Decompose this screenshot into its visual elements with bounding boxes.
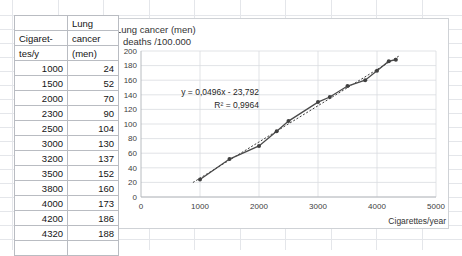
cell-lung-cancer-deaths[interactable]: 137: [68, 151, 119, 166]
x-tick-label: 0: [139, 202, 144, 211]
x-tick-label: 2000: [250, 202, 268, 211]
table-row[interactable]: 4320188: [15, 226, 119, 241]
cell-cigarettes-per-year[interactable]: 1000: [15, 61, 68, 76]
table-row[interactable]: 200070: [15, 91, 119, 106]
table-row[interactable]: 3500152: [15, 166, 119, 181]
y-tick-label: 180: [124, 61, 138, 70]
y-tick-label: 20: [128, 178, 137, 187]
cell-lung-cancer-deaths[interactable]: 188: [68, 226, 119, 241]
data-point-marker: [257, 144, 261, 148]
data-point-marker: [275, 129, 279, 133]
table-header-row-1: Lung: [15, 16, 119, 31]
table-row[interactable]: 3000130: [15, 136, 119, 151]
table-header-row-3: tes/y (men): [15, 46, 119, 61]
table-row[interactable]: 100024: [15, 61, 119, 76]
table-row[interactable]: 3800160: [15, 181, 119, 196]
cell-lung-cancer-deaths[interactable]: 186: [68, 211, 119, 226]
cell-cigarettes-per-year[interactable]: 3500: [15, 166, 68, 181]
header-cigarettes-line1: [15, 16, 68, 31]
cigarettes-lung-cancer-table[interactable]: Lung Cigaret- cancer tes/y (men) 1000241…: [14, 15, 119, 256]
data-point-marker: [375, 69, 379, 73]
data-point-marker: [316, 100, 320, 104]
y-tick-labels: 020406080100120140160180200: [124, 47, 138, 202]
table-row[interactable]: 3200137: [15, 151, 119, 166]
cell-cigarettes-per-year[interactable]: 2000: [15, 91, 68, 106]
cell-cigarettes-per-year[interactable]: 2500: [15, 121, 68, 136]
x-tick-labels: 010002000300040005000: [139, 202, 446, 211]
data-point-marker: [328, 95, 332, 99]
cell-cigarettes-per-year[interactable]: 3200: [15, 151, 68, 166]
header-lungcancer-line2: cancer: [68, 31, 119, 46]
x-tick-label: 1000: [191, 202, 209, 211]
y-tick-label: 40: [128, 164, 137, 173]
table-row[interactable]: 2500104: [15, 121, 119, 136]
cell-cigarettes-per-year[interactable]: 3800: [15, 181, 68, 196]
data-point-marker: [198, 177, 202, 181]
cell-lung-cancer-deaths[interactable]: 70: [68, 91, 119, 106]
cell-lung-cancer-deaths[interactable]: 130: [68, 136, 119, 151]
y-tick-label: 120: [124, 105, 138, 114]
x-tick-label: 5000: [427, 202, 445, 211]
y-tick-label: 200: [124, 47, 138, 56]
data-series-line: [200, 60, 396, 180]
y-tick-label: 100: [124, 120, 138, 129]
cell-lung-cancer-deaths[interactable]: 90: [68, 106, 119, 121]
x-axis-title: Cigarettes/year: [388, 216, 446, 226]
data-point-marker: [346, 84, 350, 88]
cell-lung-cancer-deaths[interactable]: 152: [68, 166, 119, 181]
table-row[interactable]: 230090: [15, 106, 119, 121]
cell-cigarettes-per-year[interactable]: 4000: [15, 196, 68, 211]
data-series-markers: [198, 58, 398, 182]
cell-cigarettes-per-year[interactable]: 3000: [15, 136, 68, 151]
chart-plot-svg: 020406080100120140160180200 010002000300…: [106, 19, 450, 230]
data-point-marker: [387, 59, 391, 63]
trendline-equation-label: y = 0,0496x - 23,792: [181, 87, 259, 97]
header-cigarettes-line3: tes/y: [15, 46, 68, 61]
cell-cigarettes-per-year[interactable]: 2300: [15, 106, 68, 121]
header-lungcancer-line1: Lung: [68, 16, 119, 31]
cell-empty[interactable]: [68, 241, 119, 256]
cell-cigarettes-per-year[interactable]: 1500: [15, 76, 68, 91]
table-row-empty[interactable]: [15, 241, 119, 256]
data-point-marker: [394, 58, 398, 62]
cell-lung-cancer-deaths[interactable]: 173: [68, 196, 119, 211]
cell-cigarettes-per-year[interactable]: 4200: [15, 211, 68, 226]
trendline-rsquared-label: R² = 0,9964: [214, 100, 259, 110]
y-tick-label: 140: [124, 91, 138, 100]
data-point-marker: [228, 157, 232, 161]
cell-lung-cancer-deaths[interactable]: 52: [68, 76, 119, 91]
data-point-marker: [287, 119, 291, 123]
y-tick-label: 160: [124, 76, 138, 85]
header-cigarettes-line2: Cigaret-: [15, 31, 68, 46]
x-tick-label: 3000: [309, 202, 327, 211]
table-body: 1000241500522000702300902500104300013032…: [15, 61, 119, 256]
scatter-chart-panel[interactable]: Lung cancer (men) deaths /100.000 020406…: [105, 18, 449, 229]
cell-cigarettes-per-year[interactable]: 4320: [15, 226, 68, 241]
cell-lung-cancer-deaths[interactable]: 160: [68, 181, 119, 196]
cell-empty[interactable]: [15, 241, 68, 256]
table-row[interactable]: 150052: [15, 76, 119, 91]
y-tick-label: 80: [128, 134, 137, 143]
table-row[interactable]: 4200186: [15, 211, 119, 226]
table-row[interactable]: 4000173: [15, 196, 119, 211]
sheet-column-gridline: [12, 0, 13, 250]
y-tick-label: 0: [133, 193, 138, 202]
header-lungcancer-line3: (men): [68, 46, 119, 61]
data-point-marker: [363, 78, 367, 82]
cell-lung-cancer-deaths[interactable]: 104: [68, 121, 119, 136]
x-tick-label: 4000: [368, 202, 386, 211]
y-tick-label: 60: [128, 149, 137, 158]
table-header-row-2: Cigaret- cancer: [15, 31, 119, 46]
table-header: Lung Cigaret- cancer tes/y (men): [15, 16, 119, 61]
cell-lung-cancer-deaths[interactable]: 24: [68, 61, 119, 76]
